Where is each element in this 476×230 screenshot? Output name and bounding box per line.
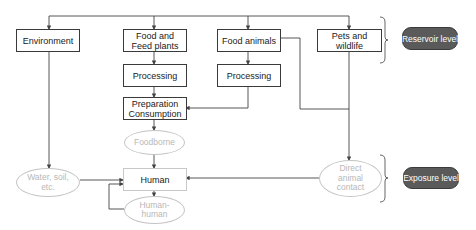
processing-plants-box: Processing bbox=[123, 64, 187, 87]
foodborne-route: Foodborne bbox=[124, 130, 185, 155]
pets-wildlife-box: Pets and wildlife bbox=[317, 29, 382, 52]
foodborne-label: Foodborne bbox=[134, 138, 175, 148]
reservoir-level-badge: Reservoir level bbox=[402, 27, 458, 50]
preparation-consumption-label: Preparation Consumption bbox=[128, 99, 181, 119]
exposure-level-label: Exposure level bbox=[403, 173, 459, 183]
processing-animals-box: Processing bbox=[217, 64, 281, 87]
environment-box: Environment bbox=[16, 29, 80, 52]
food-feed-plants-label: Food and Feed plants bbox=[131, 31, 178, 51]
water-soil-label: Water, soil, etc. bbox=[27, 173, 69, 192]
processing-plants-label: Processing bbox=[133, 71, 178, 81]
direct-animal-contact-route: Direct animal contact bbox=[319, 160, 382, 197]
human-human-route: Human- human bbox=[124, 196, 185, 224]
environment-label: Environment bbox=[23, 36, 74, 46]
pets-wildlife-label: Pets and wildlife bbox=[318, 31, 381, 51]
human-box: Human bbox=[123, 168, 187, 191]
direct-animal-contact-label: Direct animal contact bbox=[337, 164, 364, 193]
human-human-label: Human- human bbox=[139, 201, 169, 220]
preparation-consumption-box: Preparation Consumption bbox=[123, 97, 187, 120]
reservoir-level-label: Reservoir level bbox=[402, 34, 458, 44]
food-animals-label: Food animals bbox=[222, 36, 276, 46]
food-animals-box: Food animals bbox=[217, 29, 281, 52]
processing-animals-label: Processing bbox=[227, 71, 272, 81]
water-soil-route: Water, soil, etc. bbox=[16, 168, 80, 197]
human-label: Human bbox=[140, 175, 169, 185]
exposure-level-badge: Exposure level bbox=[403, 167, 459, 189]
food-feed-plants-box: Food and Feed plants bbox=[123, 29, 187, 52]
